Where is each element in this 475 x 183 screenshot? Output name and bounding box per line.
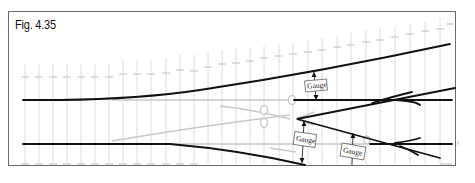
turnout-diagram: Gauge Gauge Gauge Fig. 4.35 r <box>0 0 475 183</box>
gauge-marker-2: Gauge <box>293 121 317 163</box>
figure-frame <box>9 12 456 166</box>
rail-frog-v <box>297 88 455 158</box>
figure-title: Fig. 4.35 <box>15 17 56 32</box>
stray-mark: r <box>457 140 459 146</box>
pivot-circle-mid-1 <box>261 106 268 115</box>
gauge-label-1: Gauge <box>307 80 328 91</box>
sleeper-end-marks-upper <box>21 24 454 77</box>
rail-lower-diverging <box>23 144 305 165</box>
diagram-canvas: Gauge Gauge Gauge <box>0 0 475 183</box>
gauge-marker-3: Gauge <box>340 133 366 165</box>
running-rails <box>23 44 455 165</box>
wing-rail-lower-a <box>395 138 420 143</box>
pivot-circle-mid-2 <box>261 119 268 128</box>
